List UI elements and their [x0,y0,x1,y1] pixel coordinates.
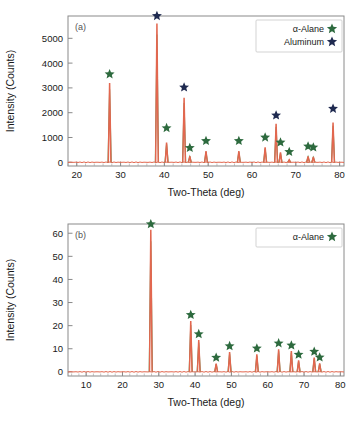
y-axis-title: Intensity (Counts) [4,50,16,132]
y-tick-label: 40 [52,274,63,285]
y-tick-label: 20 [52,320,63,331]
x-tick-label: 30 [154,379,165,390]
x-tick-label: 20 [71,169,82,180]
panel-tag: (b) [75,230,86,240]
y-tick-label: 3000 [42,82,63,93]
legend-label: α-Alane [293,232,324,242]
y-tick-label: 10 [52,343,63,354]
x-tick-label: 20 [117,379,128,390]
y-tick-label: 0 [58,157,63,168]
y-axis-title: Intensity (Counts) [4,259,16,341]
x-tick-label: 10 [81,379,92,390]
y-tick-label: 2000 [42,107,63,118]
legend-label: Aluminum [284,37,324,47]
y-tick-label: 1000 [42,132,63,143]
x-axis-title: Two-Theta (deg) [167,186,244,198]
y-tick-label: 30 [52,297,63,308]
xrd-figure: 20304050607080010002000300040005000Two-T… [0,0,356,422]
y-tick-label: 50 [52,251,63,262]
x-axis-title: Two-Theta (deg) [167,396,244,408]
y-tick-label: 0 [58,366,63,377]
x-tick-label: 30 [115,169,126,180]
y-tick-label: 4000 [42,58,63,69]
panel-tag: (a) [75,22,86,32]
y-tick-label: 60 [52,228,63,239]
x-tick-label: 70 [299,379,310,390]
x-tick-label: 50 [226,379,237,390]
legend-label: α-Alane [293,24,324,34]
x-tick-label: 40 [159,169,170,180]
y-tick-label: 5000 [42,33,63,44]
x-tick-label: 60 [262,379,273,390]
chart-panel-b: 10203040506070800102030405060Two-Theta (… [0,210,356,422]
panel-a-plot: 20304050607080010002000300040005000Two-T… [0,0,356,210]
x-tick-label: 60 [247,169,258,180]
x-tick-label: 80 [335,379,346,390]
x-tick-label: 80 [334,169,345,180]
x-tick-label: 40 [190,379,201,390]
x-tick-label: 70 [291,169,302,180]
chart-panel-a: 20304050607080010002000300040005000Two-T… [0,0,356,210]
x-tick-label: 50 [203,169,214,180]
panel-b-plot: 10203040506070800102030405060Two-Theta (… [0,210,356,422]
